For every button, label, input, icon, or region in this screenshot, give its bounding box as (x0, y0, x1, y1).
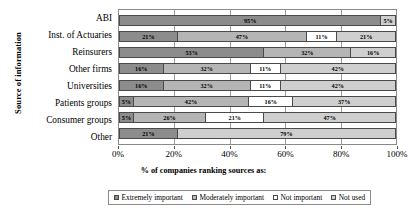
bar-segment: 42% (281, 81, 395, 90)
bar-segment: 42% (281, 64, 395, 73)
bar-segment: 21% (120, 32, 178, 41)
legend-item: Moderately important (192, 193, 264, 202)
x-axis-title: % of companies ranking sources as: (0, 166, 407, 175)
legend-swatch-icon (273, 195, 278, 200)
y-axis-tick-label: Inst. of Actuaries (16, 26, 116, 43)
legend-swatch-icon (192, 195, 197, 200)
plot-area: 95%5%21%47%11%21%53%32%16%16%32%11%42%16… (118, 9, 397, 145)
bar-segment: 5% (120, 97, 134, 106)
y-axis-tick-label: Consumer groups (16, 111, 116, 128)
bar-segment: 11% (251, 81, 281, 90)
bar-segment: 16% (120, 81, 164, 90)
bar-segment: 47% (264, 113, 395, 122)
bar-segment: 95% (120, 16, 381, 25)
bar-track: 21%79% (119, 128, 396, 139)
bar-row: 5%26%21%47% (119, 110, 396, 126)
x-axis-tick-labels: 0%20%40%60%80%100% (118, 146, 397, 158)
legend-swatch-icon (114, 195, 119, 200)
y-axis-tick-label: Universities (16, 77, 116, 94)
legend-label: Extremely important (122, 193, 183, 202)
chart-legend: Extremely importantModerately importantN… (108, 190, 371, 205)
bar-segment: 37% (293, 97, 395, 106)
y-axis-tick-label: Other (16, 128, 116, 145)
y-axis-tick-labels: ABIInst. of ActuariesReinsurersOther fir… (16, 9, 116, 145)
bar-track: 16%32%11%42% (119, 80, 396, 91)
legend-label: Not used (339, 193, 365, 202)
bar-segment: 32% (164, 81, 251, 90)
bar-segment: 26% (134, 113, 206, 122)
bar-segment: 5% (381, 16, 395, 25)
x-axis-tick-label: 40% (221, 149, 238, 159)
bar-segment: 53% (120, 48, 264, 57)
bar-track: 53%32%16% (119, 47, 396, 58)
legend-item: Extremely important (114, 193, 183, 202)
bar-segment: 32% (164, 64, 251, 73)
bar-segment: 16% (120, 64, 164, 73)
legend-label: Moderately important (199, 193, 264, 202)
y-axis-tick-label: Other firms (16, 60, 116, 77)
bar-track: 16%32%11%42% (119, 63, 396, 74)
bar-segment: 21% (337, 32, 395, 41)
bar-segment: 16% (351, 48, 395, 57)
bar-track: 95%5% (119, 15, 396, 26)
legend-item: Not used (331, 193, 365, 202)
bar-row: 21%47%11%21% (119, 28, 396, 44)
bar-segment: 11% (251, 64, 281, 73)
bar-segment: 47% (178, 32, 307, 41)
bar-track: 5%42%16%37% (119, 96, 396, 107)
x-axis-tick-label: 0% (112, 149, 124, 159)
bar-series-container: 95%5%21%47%11%21%53%32%16%16%32%11%42%16… (119, 10, 396, 144)
bar-segment: 5% (120, 113, 134, 122)
bar-segment: 42% (134, 97, 250, 106)
bar-row: 16%32%11%42% (119, 77, 396, 93)
bar-row: 5%42%16%37% (119, 93, 396, 109)
y-axis-tick-label: ABI (16, 9, 116, 26)
bar-segment: 21% (206, 113, 264, 122)
x-axis-tick-label: 100% (387, 149, 408, 159)
bar-track: 21%47%11%21% (119, 31, 396, 42)
bar-segment: 11% (307, 32, 337, 41)
bar-row: 16%32%11%42% (119, 61, 396, 77)
x-axis-tick-label: 60% (277, 149, 294, 159)
x-axis-tick-label: 80% (333, 149, 350, 159)
y-axis-tick-label: Reinsurers (16, 43, 116, 60)
bar-segment: 79% (178, 129, 395, 138)
legend-swatch-icon (331, 195, 336, 200)
legend-item: Not important (273, 193, 322, 202)
y-axis-tick-label: Patients groups (16, 94, 116, 111)
bar-row: 53%32%16% (119, 45, 396, 61)
legend-label: Not important (281, 193, 323, 202)
bar-segment: 21% (120, 129, 178, 138)
bar-track: 5%26%21%47% (119, 112, 396, 123)
bar-row: 95%5% (119, 12, 396, 28)
x-axis-tick-label: 20% (166, 149, 183, 159)
bar-row: 21%79% (119, 126, 396, 142)
bar-segment: 16% (249, 97, 293, 106)
bar-segment: 32% (264, 48, 351, 57)
